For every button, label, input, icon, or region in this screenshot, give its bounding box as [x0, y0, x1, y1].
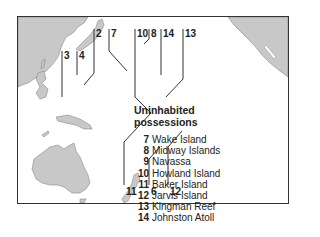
legend-name: Jarvis Island — [152, 190, 208, 201]
callout-label-10: 10 — [137, 29, 148, 39]
legend-item: 9Navassa — [134, 156, 220, 167]
legend-name: Johnston Atoll — [152, 212, 214, 223]
legend-num: 13 — [134, 201, 149, 212]
legend-item: 8Midway Islands — [134, 145, 220, 156]
legend-item: 14Johnston Atoll — [134, 212, 220, 223]
legend-item: 10Howland Island — [134, 168, 220, 179]
australia-landmass — [32, 143, 90, 193]
callout-label-7: 7 — [111, 29, 117, 39]
callout-label-14: 14 — [163, 29, 174, 39]
callout-label-3: 3 — [64, 51, 70, 61]
legend-item: 7Wake Island — [134, 134, 220, 145]
legend-item: 11Baker Island — [134, 179, 220, 190]
legend-num: 9 — [134, 156, 149, 167]
legend-num: 14 — [134, 212, 149, 223]
legend-title-line-2: possessions — [134, 116, 220, 128]
legend-num: 11 — [134, 179, 149, 190]
legend-name: Kingman Reef — [152, 201, 215, 212]
legend-item: 13Kingman Reef — [134, 201, 220, 212]
callout-label-13: 13 — [185, 29, 196, 39]
legend-num: 12 — [134, 190, 149, 201]
callout-label-2: 2 — [96, 29, 102, 39]
legend-name: Howland Island — [152, 168, 220, 179]
legend-title-line-1: Uninhabited — [134, 104, 220, 116]
legend-num: 7 — [134, 134, 149, 145]
legend-num: 10 — [134, 168, 149, 179]
legend-list: 7Wake Island 8Midway Islands 9Navassa 10… — [134, 134, 220, 224]
callout-label-4: 4 — [79, 51, 85, 61]
legend-name: Baker Island — [152, 179, 208, 190]
legend-name: Navassa — [152, 156, 191, 167]
philippines-landmass — [36, 71, 48, 99]
legend: Uninhabited possessions 7Wake Island 8Mi… — [134, 104, 220, 224]
callout-line-13 — [166, 29, 183, 97]
new-guinea-landmass — [56, 115, 92, 129]
legend-title: Uninhabited possessions — [134, 104, 220, 128]
callout-label-8: 8 — [151, 29, 157, 39]
legend-item: 12Jarvis Island — [134, 190, 220, 201]
north-america-landmass — [228, 17, 288, 77]
legend-name: Wake Island — [152, 134, 207, 145]
legend-num: 8 — [134, 145, 149, 156]
legend-name: Midway Islands — [152, 145, 220, 156]
